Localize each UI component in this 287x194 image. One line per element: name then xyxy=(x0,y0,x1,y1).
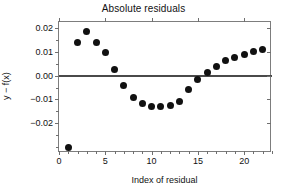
y-axis-tick-label: 0.02 xyxy=(35,23,53,33)
x-axis-tick xyxy=(59,151,60,155)
x-axis-tick xyxy=(105,151,106,155)
y-axis-tick xyxy=(55,123,59,124)
data-point xyxy=(130,94,137,101)
x-axis-minor-tick xyxy=(96,151,97,154)
x-axis-tick-top xyxy=(244,18,245,22)
x-axis-minor-tick xyxy=(263,151,264,154)
x-axis-tick xyxy=(244,151,245,155)
x-axis-minor-tick xyxy=(235,151,236,154)
data-point xyxy=(139,100,146,107)
data-point xyxy=(194,76,201,83)
y-axis-tick xyxy=(55,28,59,29)
x-axis-minor-tick xyxy=(207,151,208,154)
plot-area xyxy=(59,22,270,151)
y-axis-minor-tick xyxy=(56,40,59,41)
plot-frame: 0.020.010.00−0.01−0.0205101520 xyxy=(58,21,271,152)
x-axis-tick xyxy=(198,151,199,155)
y-axis-tick-label: −0.01 xyxy=(30,94,53,104)
data-point xyxy=(111,66,118,73)
data-point xyxy=(65,144,72,151)
y-axis-minor-tick xyxy=(56,147,59,148)
x-axis-minor-tick xyxy=(78,151,79,154)
data-point xyxy=(222,57,229,64)
x-axis-tick-top xyxy=(59,18,60,22)
y-axis-tick-label: 0.00 xyxy=(35,71,53,81)
y-axis-tick-right xyxy=(267,76,271,77)
x-axis-tick xyxy=(152,151,153,155)
data-point xyxy=(259,46,266,53)
y-axis-label: y − f(x) xyxy=(1,72,11,100)
y-axis-tick xyxy=(55,99,59,100)
y-axis-tick-right xyxy=(267,28,271,29)
zero-reference-line xyxy=(59,75,272,77)
data-point xyxy=(241,51,248,58)
y-axis-minor-tick xyxy=(56,135,59,136)
data-point xyxy=(83,28,90,35)
x-axis-minor-tick xyxy=(170,151,171,154)
y-axis-tick xyxy=(55,52,59,53)
data-point xyxy=(213,63,220,70)
x-axis-minor-tick xyxy=(133,151,134,154)
x-axis-tick-label: 5 xyxy=(103,156,108,166)
x-axis-minor-tick xyxy=(142,151,143,154)
y-axis-tick-right xyxy=(267,52,271,53)
x-axis-minor-tick xyxy=(272,151,273,154)
data-point xyxy=(231,54,238,61)
data-point xyxy=(176,98,183,105)
data-point xyxy=(167,102,174,109)
x-axis-minor-tick xyxy=(189,151,190,154)
y-axis-tick-right xyxy=(267,123,271,124)
x-axis-tick-top xyxy=(152,18,153,22)
data-point xyxy=(120,82,127,89)
data-point xyxy=(157,103,164,110)
data-point xyxy=(185,86,192,93)
data-point xyxy=(102,49,109,56)
x-axis-tick-label: 10 xyxy=(147,156,157,166)
x-axis-minor-tick xyxy=(226,151,227,154)
y-axis-minor-tick xyxy=(56,88,59,89)
data-point xyxy=(204,69,211,76)
y-axis-tick-right xyxy=(267,99,271,100)
x-axis-minor-tick xyxy=(68,151,69,154)
y-axis-minor-tick xyxy=(56,111,59,112)
chart-title: Absolute residuals xyxy=(0,3,287,15)
data-point xyxy=(74,39,81,46)
x-axis-minor-tick xyxy=(216,151,217,154)
x-axis-label: Index of residual xyxy=(58,175,271,185)
data-point xyxy=(93,39,100,46)
y-axis-tick-label: −0.02 xyxy=(30,118,53,128)
x-axis-minor-tick xyxy=(115,151,116,154)
x-axis-tick-label: 15 xyxy=(193,156,203,166)
x-axis-tick-label: 20 xyxy=(239,156,249,166)
chart-figure: Absolute residuals y − f(x) 0.020.010.00… xyxy=(0,0,287,194)
data-point xyxy=(148,103,155,110)
x-axis-tick-top xyxy=(105,18,106,22)
data-point xyxy=(250,48,257,55)
x-axis-minor-tick xyxy=(124,151,125,154)
x-axis-minor-tick xyxy=(253,151,254,154)
x-axis-minor-tick xyxy=(179,151,180,154)
y-axis-tick-label: 0.01 xyxy=(35,47,53,57)
x-axis-tick-label: 0 xyxy=(56,156,61,166)
y-axis-minor-tick xyxy=(56,64,59,65)
x-axis-minor-tick xyxy=(161,151,162,154)
y-axis-tick xyxy=(55,76,59,77)
x-axis-tick-top xyxy=(198,18,199,22)
x-axis-minor-tick xyxy=(87,151,88,154)
